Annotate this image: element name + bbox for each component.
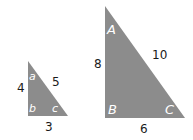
angle-label-C: C (165, 102, 175, 117)
angle-label-b: b (29, 102, 36, 115)
similar-triangles-diagram: a b c 4 5 3 A B C 8 10 6 (0, 0, 193, 140)
side-label-5: 5 (52, 75, 60, 89)
angle-label-B: B (108, 102, 117, 117)
angle-label-c: c (52, 102, 58, 115)
angle-label-a: a (29, 70, 36, 83)
large-triangle: A B C 8 10 6 (94, 6, 185, 136)
small-triangle: a b c 4 5 3 (17, 61, 68, 134)
side-label-4: 4 (17, 81, 25, 95)
side-label-3: 3 (45, 120, 53, 134)
side-label-10: 10 (152, 48, 167, 62)
angle-label-A: A (106, 22, 116, 37)
side-label-6: 6 (140, 122, 148, 136)
side-label-8: 8 (94, 57, 102, 71)
